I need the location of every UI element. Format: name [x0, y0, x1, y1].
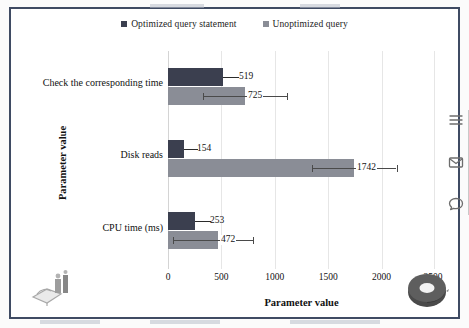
bar-group: 154 1742 — [168, 140, 435, 178]
stamp-watermark — [27, 267, 75, 309]
x-axis-tick-labels: 0 500 1000 1500 2000 2500 — [168, 272, 435, 286]
error-bar-line — [203, 96, 286, 97]
scan-artifact — [150, 4, 204, 8]
x-tick: 1000 — [265, 272, 284, 282]
category-label: Disk reads — [121, 149, 164, 160]
bar-value-label: 725 — [247, 91, 263, 101]
legend-item-unoptimized: Unoptimized query — [263, 19, 348, 29]
bar-optimized — [168, 140, 184, 158]
x-axis-title: Parameter value — [168, 297, 435, 308]
bar-group: 253 472 — [168, 212, 435, 250]
bar-group: 519 725 — [168, 68, 435, 106]
scan-artifact — [40, 320, 100, 324]
error-bar-cap-low — [203, 93, 204, 100]
leader-line — [195, 221, 211, 222]
square-marker-icon — [121, 21, 127, 27]
error-bar-cap-high — [397, 165, 398, 172]
bar-value-label: 253 — [210, 216, 224, 226]
bar-value-label: 154 — [197, 144, 211, 154]
bar-value-label: 1742 — [356, 163, 377, 173]
page-canvas: Optimized query statement Unoptimized qu… — [0, 0, 469, 328]
scan-artifact — [300, 4, 340, 8]
x-tick: 0 — [166, 272, 171, 282]
bar-value-label: 472 — [220, 235, 236, 245]
error-bar-cap-low — [312, 165, 313, 172]
scan-artifact — [150, 320, 220, 324]
y-axis-category-labels: Check the corresponding time Disk reads … — [11, 51, 163, 269]
x-tick: 2000 — [372, 272, 391, 282]
error-bar-line — [312, 168, 396, 169]
error-bar-cap-high — [287, 93, 288, 100]
chat-icon[interactable] — [448, 196, 464, 212]
menu-icon[interactable] — [448, 112, 464, 128]
category-label: CPU time (ms) — [102, 222, 163, 233]
legend-label-optimized: Optimized query statement — [131, 19, 236, 29]
x-tick: 500 — [214, 272, 228, 282]
figure-frame: Optimized query statement Unoptimized qu… — [9, 7, 460, 319]
chart-legend: Optimized query statement Unoptimized qu… — [11, 19, 458, 29]
ring-watermark — [402, 267, 452, 313]
legend-label-unoptimized: Unoptimized query — [273, 19, 348, 29]
square-marker-icon — [263, 21, 269, 27]
plot-area: 519 725 154 1742 — [168, 51, 435, 269]
error-bar-cap-high — [253, 237, 254, 244]
mail-icon[interactable] — [448, 154, 464, 170]
bar-value-label: 519 — [239, 72, 253, 82]
category-label: Check the corresponding time — [43, 77, 163, 88]
legend-item-optimized: Optimized query statement — [121, 19, 236, 29]
bar-optimized — [168, 212, 195, 230]
icon-rail[interactable] — [445, 112, 467, 212]
error-bar-line — [173, 240, 253, 241]
leader-line — [223, 77, 239, 78]
x-tick: 1500 — [319, 272, 338, 282]
error-bar-cap-low — [173, 237, 174, 244]
bar-optimized — [168, 68, 223, 86]
scan-artifact — [290, 320, 380, 324]
